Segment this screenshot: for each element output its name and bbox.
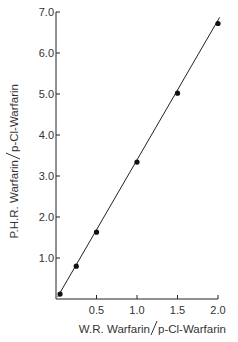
chart: 1.02.03.04.05.06.07.0 0.51.01.52.0 W.R. … <box>0 0 238 342</box>
x-axis-ticks: 0.51.01.52.0 <box>89 295 226 316</box>
y-axis-title: P.H.R. Warfarin p-Cl-Warfarin <box>6 84 20 239</box>
axes <box>56 12 218 299</box>
x-tick-label: 2.0 <box>210 304 225 316</box>
x-tick-label: 1.5 <box>170 304 185 316</box>
data-point <box>74 264 79 269</box>
y-tick-label: 5.0 <box>39 88 54 100</box>
fraction-slash <box>6 153 20 159</box>
data-point <box>134 159 139 164</box>
data-point <box>175 91 180 96</box>
y-axis-ticks: 1.02.03.04.05.06.07.0 <box>39 6 60 264</box>
x-axis-title-numerator: W.R. Warfarin <box>79 323 150 335</box>
y-axis-title-denominator: p-Cl-Warfarin <box>8 84 20 152</box>
y-tick-label: 1.0 <box>39 252 54 264</box>
y-tick-label: 6.0 <box>39 47 54 59</box>
data-point <box>215 21 220 26</box>
x-tick-label: 0.5 <box>89 304 104 316</box>
y-axis-title-numerator: P.H.R. Warfarin <box>8 160 20 239</box>
x-tick-label: 1.0 <box>129 304 144 316</box>
y-tick-label: 4.0 <box>39 129 54 141</box>
data-point <box>94 230 99 235</box>
y-tick-label: 7.0 <box>39 6 54 18</box>
y-tick-label: 3.0 <box>39 170 54 182</box>
x-axis-title: W.R. Warfarin p-Cl-Warfarin <box>79 321 226 335</box>
data-point <box>57 291 62 296</box>
y-tick-label: 2.0 <box>39 211 54 223</box>
x-axis-title-denominator: p-Cl-Warfarin <box>158 323 226 335</box>
fraction-slash <box>151 321 157 335</box>
regression-line <box>58 17 220 297</box>
